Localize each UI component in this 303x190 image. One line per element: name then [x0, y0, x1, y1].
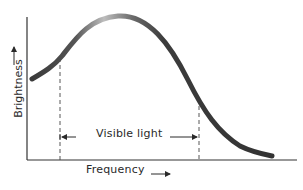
brightness-frequency-diagram: Brightness Visible light Frequency: [0, 0, 303, 190]
visible-light-label: Visible light: [96, 127, 162, 140]
chart-canvas: [0, 0, 303, 190]
y-axis-label: Brightness: [12, 57, 25, 121]
x-axis-label: Frequency: [86, 163, 145, 176]
